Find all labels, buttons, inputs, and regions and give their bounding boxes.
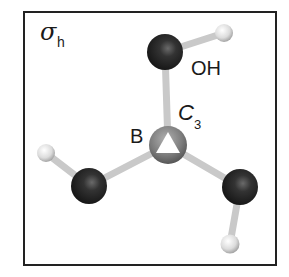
hydrogen-atom-top [215,24,233,42]
c3-axis-label: C [178,102,194,124]
sigma-h-subscript: h [57,35,65,49]
molecule-diagram: σ h OH B C 3 [0,0,289,277]
boron-label: B [130,126,143,146]
oxygen-atom-right [222,169,258,205]
hydrogen-atom-left [37,144,55,162]
c3-axis-subscript: 3 [194,118,201,131]
oxygen-atom-top [147,34,183,70]
oxygen-atom-left [71,168,107,204]
oh-label: OH [191,58,221,78]
sigma-h-label: σ [40,20,56,44]
hydrogen-atom-right [221,235,240,254]
